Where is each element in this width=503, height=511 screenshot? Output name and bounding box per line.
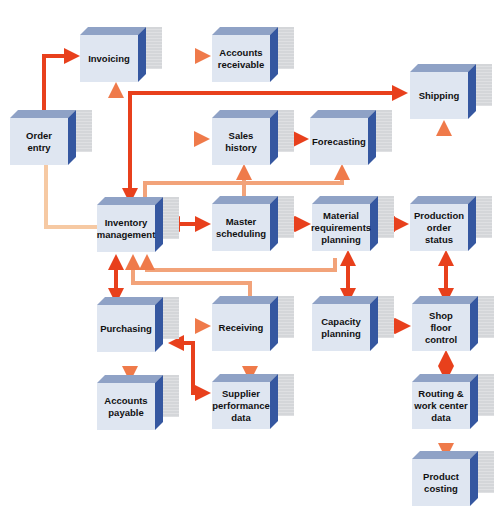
node-label: Shop floor control — [423, 310, 459, 346]
node-accounts-payable: Accounts payable — [97, 383, 163, 430]
node-sales-history: Sales history — [212, 118, 278, 165]
node-purchasing: Purchasing — [97, 305, 163, 352]
node-master-scheduling: Master scheduling — [212, 204, 278, 251]
node-label: Routing & work center data — [412, 388, 469, 424]
edge-order-entry-to-inventory — [46, 165, 97, 227]
node-label: Supplier performance data — [210, 388, 272, 424]
node-capacity-planning: Capacity planning — [312, 304, 378, 351]
node-label: Capacity planning — [319, 316, 363, 340]
node-receiving: Receiving — [212, 304, 278, 351]
node-label: Material requirements planning — [309, 210, 373, 246]
node-label: Receiving — [217, 322, 266, 334]
edge-purchasing-supplier — [176, 343, 203, 393]
node-label: Purchasing — [98, 323, 154, 335]
node-order-entry: Order entry — [10, 118, 76, 165]
node-routing-work-center-data: Routing & work center data — [412, 382, 478, 429]
node-forecasting: Forecasting — [310, 118, 376, 165]
edge-mrp-to-inventory — [147, 258, 335, 270]
node-production-order-status: Production order status — [410, 204, 476, 251]
node-inventory-management: Inventory management — [97, 205, 163, 252]
node-label: Sales history — [223, 130, 259, 154]
node-label: Production order status — [412, 210, 466, 246]
node-label: Order entry — [24, 130, 54, 154]
node-label: Invoicing — [86, 53, 132, 65]
node-label: Forecasting — [310, 136, 368, 148]
node-label: Shipping — [417, 90, 462, 102]
node-product-costing: Product costing — [412, 459, 478, 506]
node-shipping: Shipping — [410, 72, 476, 119]
node-material-requirements-planning: Material requirements planning — [312, 204, 378, 251]
node-label: Product costing — [421, 471, 461, 495]
node-accounts-receivable: Accounts receivable — [212, 35, 278, 82]
edge-order-entry-to-invoicing — [44, 56, 72, 112]
node-label: Master scheduling — [214, 216, 268, 240]
edge-receiving-to-inventory — [133, 262, 250, 298]
node-invoicing: Invoicing — [80, 35, 146, 82]
node-label: Accounts payable — [102, 395, 149, 419]
node-label: Inventory management — [95, 217, 158, 241]
node-supplier-performance-data: Supplier performance data — [212, 382, 278, 429]
node-label: Accounts receivable — [216, 47, 266, 71]
node-shop-floor-control: Shop floor control — [412, 304, 478, 351]
